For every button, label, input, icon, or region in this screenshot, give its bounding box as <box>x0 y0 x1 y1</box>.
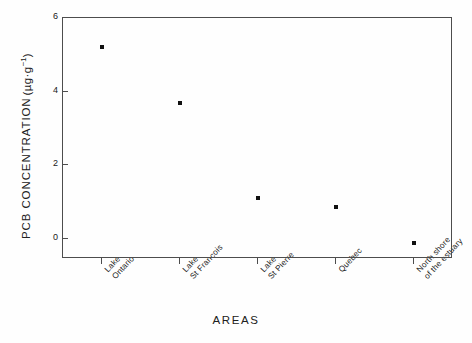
data-point <box>100 45 104 49</box>
x-axis-title: AREAS <box>0 314 472 326</box>
y-axis-tick-label: 6 <box>44 11 58 21</box>
y-axis-unit: (µg·g−1) <box>19 53 33 95</box>
data-point <box>178 101 182 105</box>
data-point <box>256 196 260 200</box>
x-axis-tick <box>335 258 336 264</box>
y-axis-unit-open: ( <box>21 91 33 95</box>
pcb-concentration-scatter-chart: PCB CONCENTRATION (µg·g−1) 0246LakeOntar… <box>0 0 472 343</box>
y-axis-tick-label: 2 <box>44 158 58 168</box>
x-axis-tick <box>179 258 180 264</box>
y-axis-tick-label: 4 <box>44 85 58 95</box>
x-axis-tick <box>257 258 258 264</box>
x-axis-tick <box>101 258 102 264</box>
y-axis-unit-exponent: −1 <box>19 57 28 66</box>
x-axis-tick <box>413 258 414 264</box>
plot-area <box>62 17 452 258</box>
y-axis-unit-close: ) <box>21 53 33 57</box>
y-axis-tick-label: 0 <box>44 232 58 242</box>
data-point <box>334 205 338 209</box>
data-point <box>412 241 416 245</box>
y-axis-unit-body: µg·g <box>21 66 33 91</box>
y-axis-title-text: PCB CONCENTRATION <box>20 97 32 239</box>
y-axis-title: PCB CONCENTRATION (µg·g−1) <box>15 16 37 276</box>
